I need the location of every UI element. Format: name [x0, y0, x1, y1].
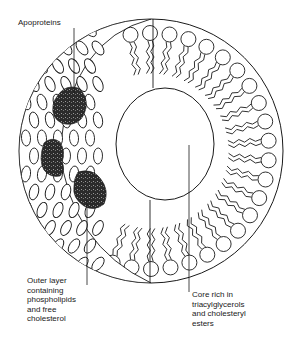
label-apoproteins: Apoproteins — [18, 18, 61, 28]
core — [116, 88, 214, 200]
label-outer-layer: Outer layer containing phospholipids and… — [27, 276, 76, 324]
label-core: Core rich in triacylglycerols and choles… — [192, 290, 246, 328]
apoprotein-2 — [41, 139, 64, 176]
